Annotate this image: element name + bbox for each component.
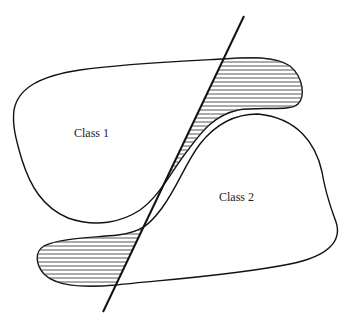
class1-label: Class 1 — [74, 127, 109, 139]
decision-boundary-diagram — [0, 0, 349, 321]
decision-boundary-line — [103, 16, 244, 312]
class2-label: Class 2 — [219, 191, 254, 203]
